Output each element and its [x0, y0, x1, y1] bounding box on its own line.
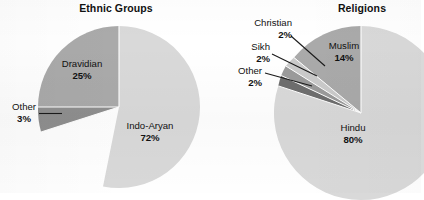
slice-label-sikh: Sikh 2%: [200, 41, 270, 64]
slice-label-dravidian-pct: 25%: [42, 70, 122, 82]
slice-label-sikh-name: Sikh: [251, 41, 270, 52]
slice-label-indo-aryan-name: Indo-Aryan: [127, 120, 174, 131]
slice-label-dravidian-name: Dravidian: [62, 58, 103, 69]
slice-label-indo-aryan: Indo-Aryan 72%: [107, 120, 193, 143]
slice-label-muslim: Muslim 14%: [313, 40, 375, 63]
slice-label-hindu-name: Hindu: [340, 122, 365, 133]
slice-label-other-religion-name: Other: [238, 65, 262, 76]
slice-label-christian-name: Christian: [254, 17, 292, 28]
chart-title-religions: Religions: [300, 2, 424, 14]
slice-label-muslim-pct: 14%: [313, 52, 375, 64]
slice-label-muslim-name: Muslim: [329, 40, 359, 51]
slice-label-indo-aryan-pct: 72%: [107, 132, 193, 144]
slice-label-sikh-pct: 2%: [200, 53, 270, 65]
slice-label-other-ethnic-name: Other: [12, 101, 36, 112]
slice-label-other-ethnic: Other 3%: [2, 101, 46, 124]
slice-label-other-ethnic-pct: 3%: [2, 113, 46, 125]
slice-label-other-religion: Other 2%: [200, 65, 262, 88]
slice-label-dravidian: Dravidian 25%: [42, 58, 122, 81]
slice-label-other-religion-pct: 2%: [200, 77, 262, 89]
pie-ethnic-groups: [38, 26, 200, 188]
slice-label-hindu-pct: 80%: [320, 134, 386, 146]
slice-label-christian: Christian 2%: [200, 17, 292, 40]
slice-label-hindu: Hindu 80%: [320, 122, 386, 145]
slice-label-christian-pct: 2%: [200, 29, 292, 41]
chart-title-ethnic-groups: Ethnic Groups: [0, 2, 232, 14]
